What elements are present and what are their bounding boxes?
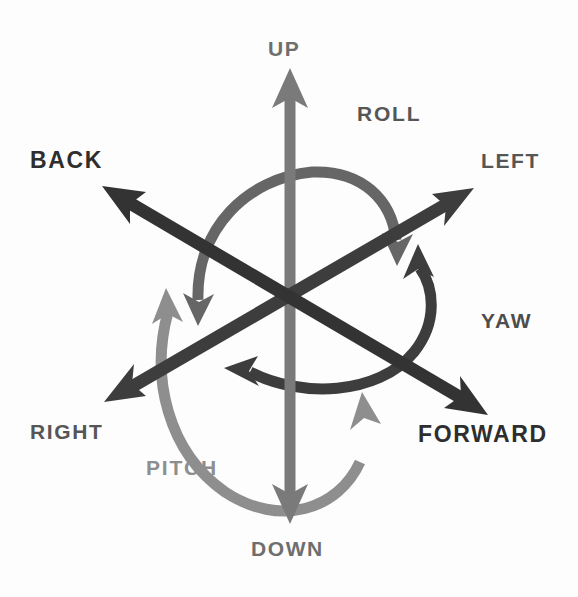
label-left: LEFT [481, 150, 540, 171]
diagram-canvas [0, 0, 578, 597]
label-up: UP [268, 38, 300, 59]
label-yaw: YAW [481, 310, 532, 331]
label-roll: ROLL [357, 103, 421, 124]
label-right: RIGHT [30, 421, 103, 442]
label-back: BACK [30, 149, 103, 172]
label-down: DOWN [251, 538, 324, 559]
axes-diagram: UP DOWN BACK FORWARD LEFT RIGHT ROLL YAW… [0, 0, 578, 597]
label-pitch: PITCH [146, 457, 218, 478]
label-forward: FORWARD [418, 423, 548, 446]
